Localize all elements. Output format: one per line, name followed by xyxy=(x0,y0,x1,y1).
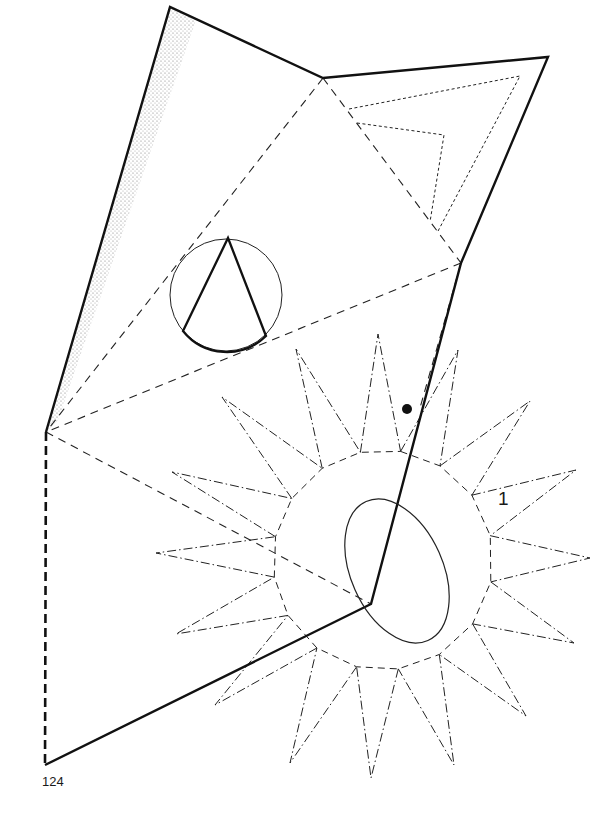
sun-rays xyxy=(156,334,590,778)
papercraft-template xyxy=(0,0,616,815)
fold-lines xyxy=(46,78,461,604)
cut-guide-dotted xyxy=(349,76,520,233)
sun-star xyxy=(156,334,590,778)
alignment-dot xyxy=(402,404,412,414)
page-number: 124 xyxy=(42,774,64,789)
outer-outline xyxy=(45,7,548,765)
glue-tab-stipple xyxy=(46,7,196,432)
arch-window-icon xyxy=(183,238,266,352)
left-fold-edge xyxy=(45,432,46,765)
part-number-label: 1 xyxy=(498,488,509,510)
